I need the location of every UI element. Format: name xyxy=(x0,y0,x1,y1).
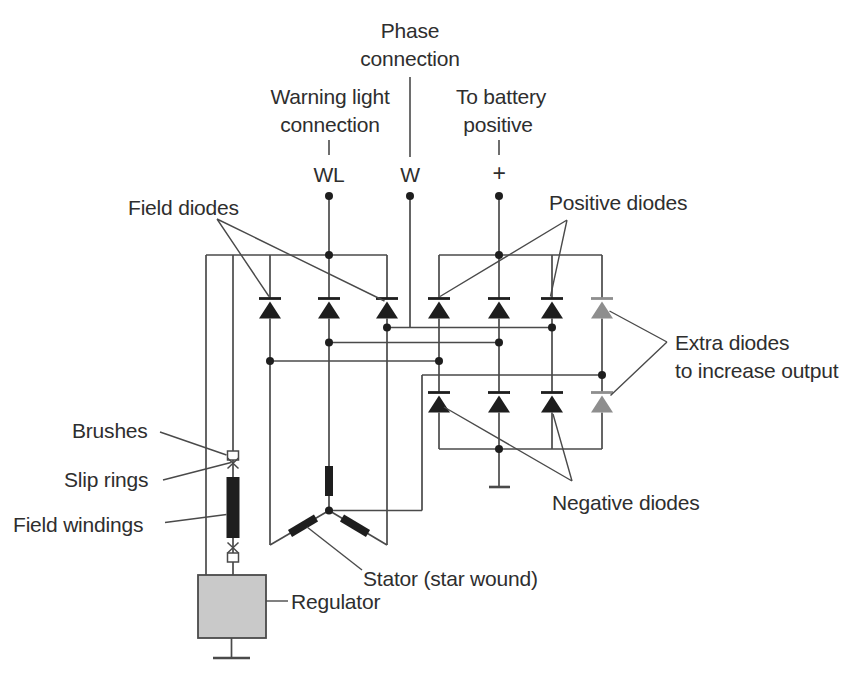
ground-rail-junction xyxy=(495,445,503,453)
extra-diodes-label-line2: to increase output xyxy=(675,359,839,382)
field-winding-bar xyxy=(227,477,240,538)
stator-label: Stator (star wound) xyxy=(363,567,538,590)
extra-diodes-leader xyxy=(610,311,668,396)
field-windings-leader xyxy=(165,515,227,523)
positive-diodes-leader xyxy=(440,220,567,297)
slip-rings-leader xyxy=(163,463,231,481)
rectifier-ground-symbol xyxy=(489,449,510,487)
extra-diodes-label-line1: Extra diodes xyxy=(675,331,789,354)
wl-rail-junction xyxy=(325,251,333,259)
phase2-right-junction xyxy=(495,339,503,347)
field-windings-label: Field windings xyxy=(13,513,143,536)
stator-winding-right xyxy=(342,518,368,534)
star-line-junction xyxy=(598,371,606,379)
alternator-circuit-diagram: Phase connection Warning light connectio… xyxy=(0,0,867,684)
wl-terminal-dot xyxy=(325,192,333,200)
stator-leader xyxy=(307,527,362,570)
w-terminal-dot xyxy=(406,192,414,200)
diagram-svg: Phase connection Warning light connectio… xyxy=(0,0,867,684)
extra-negative-diode xyxy=(591,393,613,413)
regulator-ground-symbol xyxy=(213,638,250,658)
negative-diode-1 xyxy=(428,393,450,413)
battery-label-line2: positive xyxy=(463,113,533,136)
field-diodes-label: Field diodes xyxy=(128,196,239,219)
positive-diodes-label: Positive diodes xyxy=(549,191,687,214)
field-diodes-leader xyxy=(217,219,385,301)
negative-diodes-label: Negative diodes xyxy=(552,491,700,514)
slip-rings-label: Slip rings xyxy=(64,468,148,491)
phase-connection-label-line1: Phase xyxy=(381,19,440,42)
field-diode-2 xyxy=(318,299,340,319)
battery-label-line1: To battery xyxy=(456,85,547,108)
brushes-leader xyxy=(160,432,227,455)
phase1-right-junction xyxy=(435,357,443,365)
bplus-terminal-dot xyxy=(495,192,503,200)
phase3-right-junction xyxy=(548,324,556,332)
bplus-rail-junction xyxy=(495,251,503,259)
phase1-left-junction xyxy=(266,357,274,365)
phase3-left-junction xyxy=(383,324,391,332)
brush-bottom xyxy=(228,553,239,562)
regulator-box xyxy=(198,575,266,638)
negative-diode-2 xyxy=(488,393,510,413)
extra-positive-diode xyxy=(591,299,613,319)
plus-terminal-label: + xyxy=(492,160,505,186)
regulator-label: Regulator xyxy=(291,590,380,613)
phase-connection-label-line2: connection xyxy=(360,47,460,70)
positive-diode-1 xyxy=(428,299,450,319)
warning-light-label-line2: connection xyxy=(280,113,380,136)
field-diode-3 xyxy=(376,299,398,319)
brushes-label: Brushes xyxy=(72,419,148,442)
warning-light-label-line1: Warning light xyxy=(270,85,390,108)
field-diode-1 xyxy=(259,299,281,319)
positive-diode-2 xyxy=(488,299,510,319)
w-terminal-label: W xyxy=(400,163,420,186)
wl-terminal-label: WL xyxy=(313,163,344,186)
phase2-left-junction xyxy=(325,339,333,347)
star-point-dot xyxy=(325,507,333,515)
positive-diode-3 xyxy=(541,299,563,319)
negative-diode-3 xyxy=(541,393,563,413)
junction-dots xyxy=(266,192,606,453)
